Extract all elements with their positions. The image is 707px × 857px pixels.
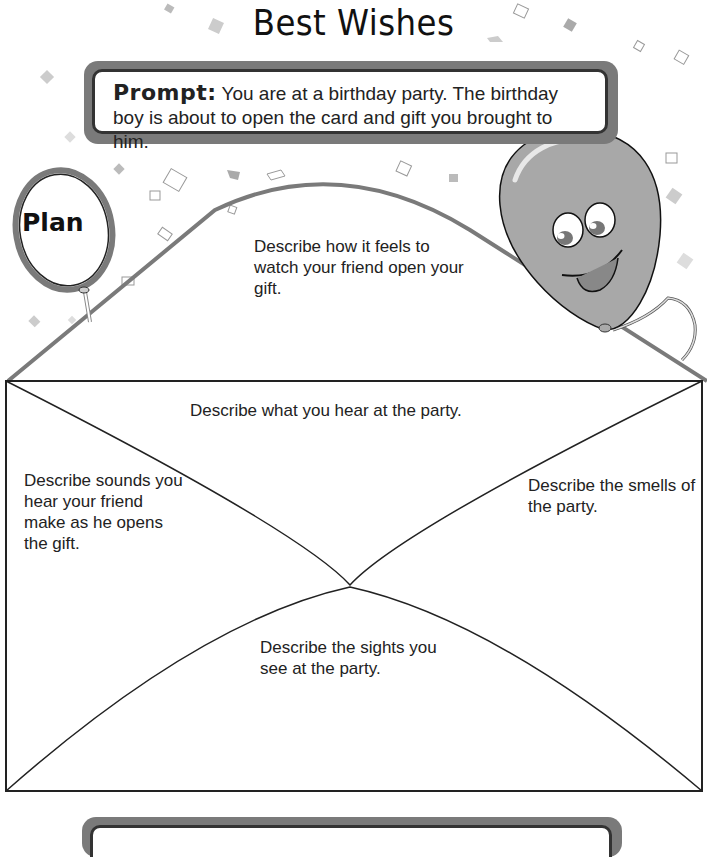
prompt-label: Prompt: [113, 80, 217, 105]
prompt-box: Prompt: You are at a birthday party. The… [84, 61, 618, 144]
smiling-balloon-icon [500, 129, 696, 360]
bottom-frame-inner [90, 825, 612, 857]
bottom-frame [82, 817, 622, 857]
prompt-content: Prompt: You are at a birthday party. The… [92, 69, 608, 134]
left-section-prompt: Describe sounds you hear your friend mak… [24, 470, 184, 554]
bottom-section-prompt: Describe the sights you see at the party… [260, 637, 460, 679]
top-section-prompt: Describe what you hear at the party. [190, 400, 530, 421]
plan-label: Plan [22, 208, 84, 237]
plan-balloon-icon [6, 163, 121, 322]
right-section-prompt: Describe the smells of the party. [528, 475, 703, 517]
flap-top-prompt: Describe how it feels to watch your frie… [254, 236, 474, 299]
envelope-body [6, 381, 702, 791]
